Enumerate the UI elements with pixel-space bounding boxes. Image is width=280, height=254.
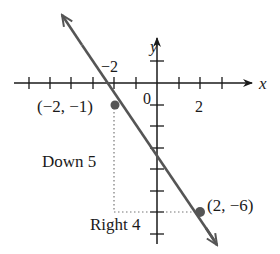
point-label-neg2-neg1: (−2, −1) [37,97,93,116]
rise-annotation: Down 5 [42,152,96,171]
x-axis-label: x [258,74,267,93]
tick-label-neg2: −2 [101,58,118,75]
origin-label: 0 [143,90,151,107]
coordinate-plane: y x −2 0 2 (−2, −1) (2, −6) Down 5 Right… [0,0,280,254]
line-arrow-down-icon [206,228,217,245]
y-axis [150,38,164,244]
tick-label-2: 2 [195,98,203,115]
point-2-neg6 [195,207,205,217]
line-arrow-up-icon [62,15,82,45]
point-label-2-neg6: (2, −6) [207,196,253,215]
point-neg2-neg1 [111,101,120,110]
y-axis-label: y [148,37,158,56]
x-axis [14,77,252,89]
run-annotation: Right 4 [90,215,141,234]
